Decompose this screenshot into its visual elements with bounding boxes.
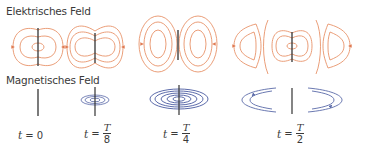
fraction: T 8 [103, 122, 112, 145]
equals-sign: = [284, 128, 292, 139]
equals-sign: = [170, 128, 178, 139]
magnetic-panel-t8 [81, 87, 109, 116]
time-variable: t [277, 128, 281, 140]
time-value: 0 [37, 130, 43, 141]
time-variable: t [18, 129, 22, 141]
magnetic-panel-t2 [242, 88, 342, 114]
electric-panel-t4 [139, 16, 217, 72]
time-variable: t [84, 128, 88, 140]
fraction-denominator: 2 [297, 134, 303, 145]
fraction-denominator: 8 [104, 134, 110, 145]
electric-panel-t2 [234, 20, 350, 74]
fraction-numerator: T [296, 122, 305, 134]
equals-sign: = [91, 128, 99, 139]
electric-panel-t8 [67, 26, 123, 68]
time-variable: t [163, 128, 167, 140]
fraction: T 4 [182, 122, 191, 145]
time-label-t0: t = 0 [18, 129, 43, 141]
fraction-numerator: T [103, 122, 112, 134]
equals-sign: = [25, 130, 33, 141]
magnetic-panel-t4 [150, 85, 208, 115]
fraction: T 2 [296, 122, 305, 145]
time-label-t4: t = T 4 [163, 122, 190, 145]
time-label-t2: t = T 2 [277, 122, 304, 145]
fraction-numerator: T [182, 122, 191, 134]
time-label-t8: t = T 8 [84, 122, 111, 145]
fraction-denominator: 4 [183, 134, 189, 145]
electric-panel-t0 [13, 28, 63, 66]
